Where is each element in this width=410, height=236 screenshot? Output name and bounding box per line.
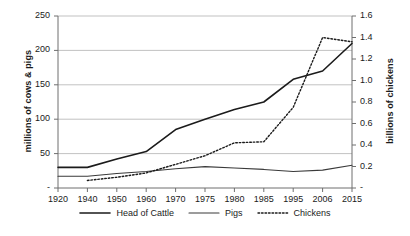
- series-line-pigs: [58, 165, 352, 176]
- legend-item-pigs[interactable]: Pigs: [188, 208, 243, 218]
- legend-swatch-solid-thick: [79, 209, 111, 217]
- livestock-population-line-chart: millions of cows & pigs billions of chic…: [0, 0, 410, 236]
- legend-label: Head of Cattle: [116, 208, 174, 218]
- legend-label: Chickens: [294, 208, 331, 218]
- legend-swatch-solid-thin: [188, 209, 220, 217]
- series-line-head-of-cattle: [58, 44, 352, 168]
- legend-swatch-dotted: [257, 209, 289, 217]
- chart-legend: Head of CattlePigsChickens: [0, 208, 410, 218]
- series-line-chickens: [87, 38, 352, 181]
- legend-label: Pigs: [225, 208, 243, 218]
- plot-area: [0, 0, 410, 236]
- legend-item-head-of-cattle[interactable]: Head of Cattle: [79, 208, 174, 218]
- legend-item-chickens[interactable]: Chickens: [257, 208, 331, 218]
